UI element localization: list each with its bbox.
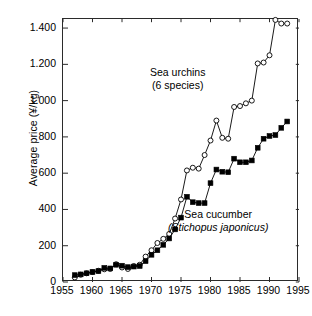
data-point bbox=[196, 166, 201, 171]
x-tick-label: 1980 bbox=[198, 284, 221, 296]
data-point bbox=[72, 273, 77, 278]
data-point bbox=[102, 265, 107, 270]
annotation-sea-cucumber-line1: Sea cucumber bbox=[168, 208, 268, 221]
data-point bbox=[255, 145, 260, 150]
data-point bbox=[249, 158, 254, 163]
data-point bbox=[202, 153, 207, 158]
y-tick-label: 400 bbox=[10, 202, 56, 214]
data-point bbox=[78, 272, 83, 277]
data-point bbox=[220, 135, 225, 140]
data-point bbox=[255, 61, 260, 66]
data-point bbox=[190, 200, 195, 205]
data-point bbox=[90, 270, 95, 275]
annotation-sea-cucumber: Sea cucumber (Stichopus japonicus) bbox=[168, 208, 268, 233]
data-point bbox=[155, 248, 160, 253]
data-point bbox=[190, 165, 195, 170]
data-point bbox=[108, 266, 113, 271]
data-point bbox=[232, 104, 237, 109]
data-point bbox=[243, 101, 248, 106]
data-point bbox=[285, 119, 290, 124]
data-point bbox=[220, 169, 225, 174]
data-point bbox=[114, 262, 119, 267]
data-point bbox=[267, 53, 272, 58]
data-point bbox=[161, 242, 166, 247]
annotation-sea-cucumber-line2: (Stichopus japonicus) bbox=[168, 221, 268, 234]
data-point bbox=[149, 248, 154, 253]
data-point bbox=[179, 197, 184, 202]
data-point bbox=[155, 241, 160, 246]
data-point bbox=[202, 201, 207, 206]
data-point bbox=[238, 160, 243, 165]
data-point bbox=[238, 104, 243, 109]
data-point bbox=[226, 170, 231, 175]
x-tick-label: 1975 bbox=[168, 284, 191, 296]
data-point bbox=[261, 60, 266, 65]
chart-figure: Average price (¥/kg) 02004006008001.0001… bbox=[0, 0, 312, 316]
data-point bbox=[249, 98, 254, 103]
y-tick-label: 1.400 bbox=[10, 21, 56, 33]
annotation-sea-urchins: Sea urchins (6 species) bbox=[150, 66, 205, 91]
x-tick-label: 1955 bbox=[50, 284, 73, 296]
data-point bbox=[208, 138, 213, 143]
data-point bbox=[131, 264, 136, 269]
data-point bbox=[273, 17, 278, 22]
x-tick-label: 1985 bbox=[227, 284, 250, 296]
data-point bbox=[149, 252, 154, 257]
plot-area bbox=[62, 18, 298, 281]
data-point bbox=[214, 118, 219, 123]
data-point bbox=[84, 271, 89, 276]
data-point bbox=[143, 259, 148, 264]
data-point bbox=[120, 263, 125, 268]
x-tick-label: 1995 bbox=[286, 284, 309, 296]
y-tick-label: 800 bbox=[10, 130, 56, 142]
data-point bbox=[143, 254, 148, 259]
data-point bbox=[279, 21, 284, 26]
chart-canvas bbox=[63, 19, 299, 282]
annotation-sea-urchins-line1: Sea urchins bbox=[150, 66, 205, 79]
data-point bbox=[184, 168, 189, 173]
data-point bbox=[126, 265, 131, 270]
data-point bbox=[279, 125, 284, 130]
x-tick-label: 1970 bbox=[139, 284, 162, 296]
data-point bbox=[226, 136, 231, 141]
data-point bbox=[285, 21, 290, 26]
x-tick-label: 1965 bbox=[109, 284, 132, 296]
data-point bbox=[196, 201, 201, 206]
y-tick-label: 0 bbox=[10, 275, 56, 287]
x-tick-label: 1960 bbox=[80, 284, 103, 296]
data-point bbox=[244, 160, 249, 165]
data-point bbox=[232, 156, 237, 161]
data-point bbox=[208, 181, 213, 186]
x-tick-label: 1990 bbox=[257, 284, 280, 296]
data-point bbox=[161, 236, 166, 241]
data-point bbox=[214, 167, 219, 172]
y-tick-label: 1.000 bbox=[10, 94, 56, 106]
data-point bbox=[137, 264, 142, 269]
data-point bbox=[267, 134, 272, 139]
data-point bbox=[96, 269, 101, 274]
y-tick-label: 600 bbox=[10, 166, 56, 178]
data-point bbox=[261, 136, 266, 141]
y-tick-label: 1.200 bbox=[10, 57, 56, 69]
y-tick-label: 200 bbox=[10, 239, 56, 251]
data-point bbox=[273, 133, 278, 138]
data-point bbox=[185, 194, 190, 199]
annotation-sea-urchins-line2: (6 species) bbox=[150, 79, 205, 92]
data-point bbox=[167, 236, 172, 241]
